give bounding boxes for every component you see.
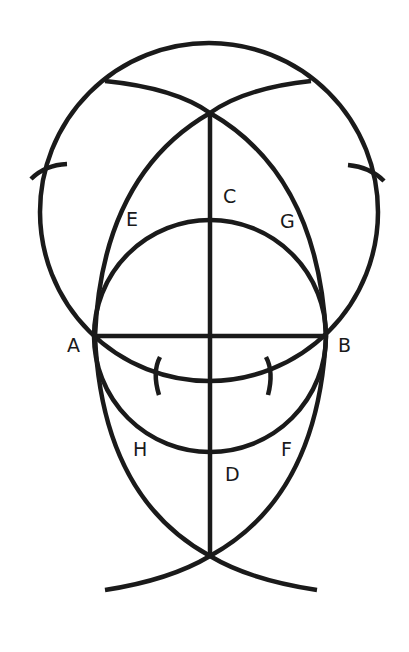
label-g: G	[280, 212, 295, 231]
label-b: B	[338, 336, 351, 355]
upper-arc-left-to-b	[105, 81, 326, 336]
diagram-canvas	[0, 0, 409, 652]
tick-mark-right	[348, 165, 384, 181]
label-a: A	[67, 336, 80, 355]
label-c: C	[223, 187, 236, 206]
label-e: E	[126, 210, 138, 229]
lower-arc-a-to-right	[95, 336, 317, 590]
label-d: D	[225, 465, 240, 484]
lower-arc-b-to-left	[105, 336, 326, 590]
tick-mark-left	[31, 164, 67, 179]
tick-mark-lower-left	[156, 357, 160, 395]
tick-mark-lower-right	[266, 357, 271, 395]
label-f: F	[281, 440, 292, 459]
construction-diagram: A B C D E F G H	[0, 0, 409, 652]
label-h: H	[133, 440, 147, 459]
